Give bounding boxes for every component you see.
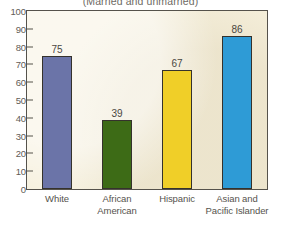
bar-slot: 67 <box>147 11 207 189</box>
bar-series: 75396786 <box>27 11 267 189</box>
y-axis-ticks <box>26 10 36 190</box>
x-axis-category-line: American <box>77 205 157 217</box>
x-axis-category-label: Asian andPacific Islander <box>197 193 277 216</box>
y-axis-tick <box>27 171 33 172</box>
y-axis-label: 70 <box>4 59 26 70</box>
chart-title-clipped: (Married and unmarried) <box>0 0 281 9</box>
bar <box>162 70 192 189</box>
bar-value-label: 67 <box>157 58 197 69</box>
bar-value-label: 75 <box>37 44 77 55</box>
bar-slot: 86 <box>207 11 267 189</box>
y-axis-label: 30 <box>4 130 26 141</box>
y-axis-tick <box>27 135 33 136</box>
y-axis-label: 20 <box>4 148 26 159</box>
y-axis-tick <box>27 28 33 29</box>
bar <box>42 56 72 190</box>
y-axis-label: 40 <box>4 112 26 123</box>
x-axis-category-line: Asian and <box>197 193 277 205</box>
bar-value-label: 39 <box>97 108 137 119</box>
y-axis: 1009080706050403020100 <box>0 10 26 190</box>
y-axis-tick <box>27 153 33 154</box>
y-axis-label: 80 <box>4 41 26 52</box>
x-axis-categories: WhiteAfricanAmericanHispanicAsian andPac… <box>27 193 267 225</box>
y-axis-label: 100 <box>4 6 26 17</box>
y-axis-label: 60 <box>4 77 26 88</box>
y-axis-label: 10 <box>4 166 26 177</box>
chart-screenshot: (Married and unmarried) 1009080706050403… <box>0 0 281 229</box>
bar-slot: 39 <box>87 11 147 189</box>
y-axis-tick <box>27 64 33 65</box>
bar <box>102 120 132 189</box>
bar <box>222 36 252 189</box>
bar-value-label: 86 <box>217 24 257 35</box>
x-axis-category-line: Pacific Islander <box>197 205 277 217</box>
y-axis-tick <box>27 117 33 118</box>
chart-title: (Married and unmarried) <box>0 0 281 7</box>
bar-slot: 75 <box>27 11 87 189</box>
y-axis-tick <box>27 46 33 47</box>
y-axis-tick <box>27 100 33 101</box>
y-axis-tick <box>27 82 33 83</box>
y-axis-label: 50 <box>4 95 26 106</box>
y-axis-label: 90 <box>4 23 26 34</box>
